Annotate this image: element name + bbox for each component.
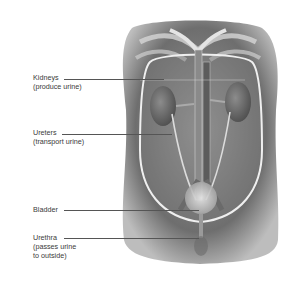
label-ureters-name: Ureters (33, 128, 84, 137)
leader-line-kidneys (64, 79, 164, 80)
label-bladder-name: Bladder (33, 205, 58, 214)
label-kidneys: Kidneys (produce urine) (33, 73, 82, 91)
label-kidneys-name: Kidneys (33, 73, 82, 82)
leader-line-ureters (62, 134, 172, 135)
label-bladder: Bladder (33, 205, 58, 214)
label-urethra-description-2: to outside) (33, 251, 76, 260)
label-ureters-description: (transport urine) (33, 137, 84, 146)
leader-line-urethra (64, 238, 199, 239)
leader-line-bladder (64, 210, 199, 211)
urinary-system-diagram: Kidneys (produce urine) Ureters (transpo… (0, 0, 304, 282)
label-ureters: Ureters (transport urine) (33, 128, 84, 146)
label-kidneys-description: (produce urine) (33, 82, 82, 91)
label-urethra-description: (passes urine (33, 242, 76, 251)
